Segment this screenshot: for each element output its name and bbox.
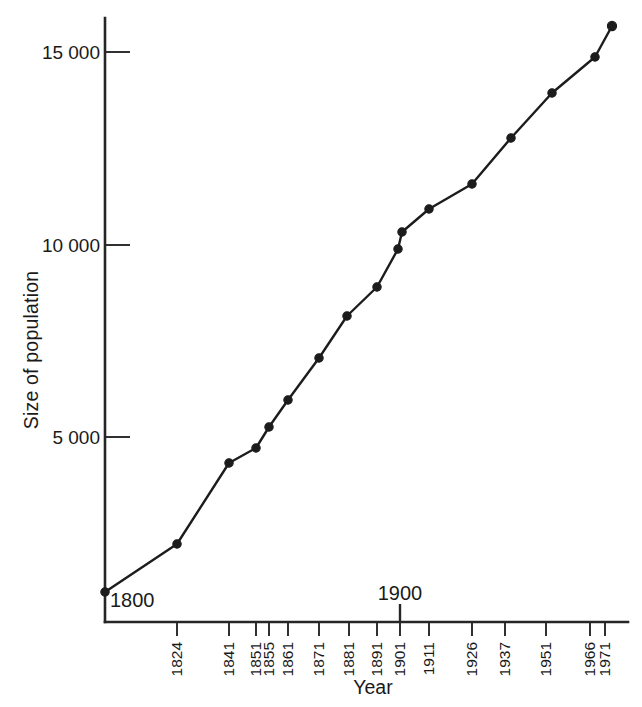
x-axis-tick-labels: 1824 1841 1851 1855 1861 1871 1881 1891 …	[168, 642, 613, 677]
data-point-1881	[343, 312, 351, 320]
x-tick-label-1911: 1911	[420, 642, 437, 675]
y-tick-label-5000: 5 000	[52, 427, 100, 448]
x-callout-label-1900: 1900	[378, 582, 423, 604]
x-tick-label-1937: 1937	[496, 642, 513, 676]
x-tick-label-1841: 1841	[220, 642, 237, 676]
data-point-1824	[173, 540, 181, 548]
data-point-1800	[101, 588, 109, 596]
data-point-1966	[591, 53, 599, 61]
chart-canvas: 15 000 10 000 5 000 Size of population	[0, 0, 642, 707]
x-tick-label-1871: 1871	[310, 642, 327, 676]
x-callout-label-1800: 1800	[110, 589, 155, 611]
x-tick-label-1901: 1901	[391, 642, 408, 676]
x-tick-label-1881: 1881	[340, 642, 357, 676]
data-point-1926	[468, 180, 476, 188]
y-axis-ticks	[105, 52, 130, 437]
data-point-1971	[607, 21, 616, 30]
x-tick-label-1824: 1824	[168, 642, 185, 677]
x-tick-label-1891: 1891	[368, 642, 385, 676]
data-point-1891	[373, 283, 381, 291]
data-point-1937	[507, 134, 515, 142]
data-point-1871	[315, 354, 323, 362]
x-tick-label-1951: 1951	[537, 642, 554, 676]
y-tick-label-15000: 15 000	[42, 42, 100, 63]
x-tick-label-1855: 1855	[260, 642, 277, 676]
x-tick-label-1926: 1926	[463, 642, 480, 676]
y-axis-tick-labels: 15 000 10 000 5 000	[42, 42, 100, 448]
population-line-chart: 15 000 10 000 5 000 Size of population	[0, 0, 642, 707]
x-tick-label-1971: 1971	[596, 642, 613, 676]
x-axis-title: Year	[353, 676, 393, 698]
data-point-1851	[252, 444, 260, 452]
data-point-1861	[284, 396, 292, 404]
data-point-1951	[548, 89, 556, 97]
data-point-1901-upper	[398, 228, 406, 236]
y-axis-title: Size of population	[20, 271, 42, 430]
data-point-1841	[225, 459, 233, 467]
population-series-line	[105, 26, 612, 592]
x-tick-label-1861: 1861	[279, 642, 296, 676]
data-point-1911	[425, 205, 433, 213]
data-point-1855	[265, 423, 273, 431]
data-point-1901-lower	[394, 245, 402, 253]
x-axis-ticks	[177, 622, 605, 636]
y-tick-label-10000: 10 000	[42, 235, 100, 256]
